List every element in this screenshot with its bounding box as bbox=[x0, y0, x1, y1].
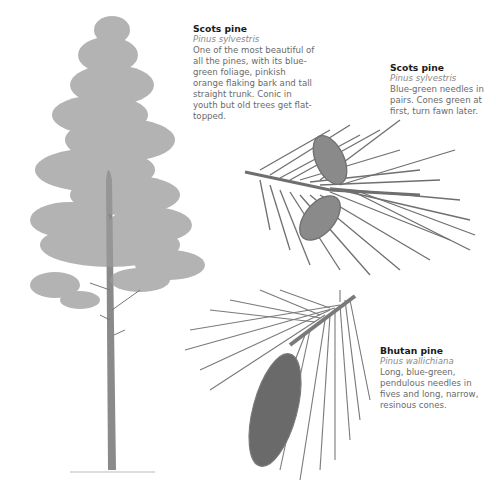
caption-scots-pine-shoot: Scots pine Pinus sylvestris Blue-green n… bbox=[390, 62, 494, 117]
caption-description: Long, blue-green, pendulous needles in f… bbox=[380, 367, 488, 411]
caption-title: Scots pine bbox=[193, 23, 318, 34]
bhutan-pine-shoot-illustration bbox=[185, 290, 370, 480]
scots-pine-shoot-illustration bbox=[245, 120, 475, 275]
caption-scots-pine-tree: Scots pine Pinus sylvestris One of the m… bbox=[193, 23, 318, 122]
caption-bhutan-pine: Bhutan pine Pinus wallichiana Long, blue… bbox=[380, 345, 488, 411]
caption-latin-name: Pinus wallichiana bbox=[380, 356, 488, 367]
caption-latin-name: Pinus sylvestris bbox=[193, 34, 318, 45]
caption-title: Scots pine bbox=[390, 62, 494, 73]
caption-description: One of the most beautiful of all the pin… bbox=[193, 45, 318, 122]
scots-pine-tree-illustration bbox=[30, 16, 205, 472]
caption-latin-name: Pinus sylvestris bbox=[390, 73, 494, 84]
caption-title: Bhutan pine bbox=[380, 345, 488, 356]
caption-description: Blue-green needles in pairs. Cones green… bbox=[390, 84, 494, 117]
